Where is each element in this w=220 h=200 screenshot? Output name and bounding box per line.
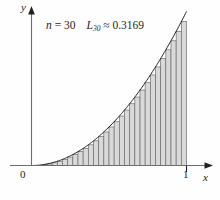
- riemann-bar: [156, 67, 161, 166]
- riemann-bar: [125, 110, 130, 165]
- riemann-bar: [181, 22, 186, 166]
- riemann-bar: [78, 152, 83, 166]
- riemann-bar: [140, 90, 145, 165]
- riemann-bar: [109, 127, 114, 166]
- riemann-bar: [161, 59, 166, 166]
- riemann-bar: [171, 41, 176, 166]
- riemann-bar: [176, 31, 181, 165]
- riemann-bar: [130, 104, 135, 166]
- riemann-bar: [63, 159, 68, 165]
- approx-sign: ≈: [100, 19, 112, 31]
- riemann-bar: [83, 148, 88, 165]
- riemann-bar: [145, 83, 150, 166]
- x-axis-arrow-icon: [205, 162, 214, 169]
- riemann-bar: [166, 50, 171, 166]
- riemann-bar: [68, 157, 73, 165]
- riemann-bar: [104, 132, 109, 166]
- riemann-bar: [119, 116, 124, 165]
- L-value: 0.3169: [112, 19, 144, 31]
- riemann-sum-annotation: n = 30L30 ≈ 0.3169: [46, 19, 144, 33]
- x-tick-label-1: 1: [183, 168, 189, 180]
- n-value: 30: [64, 19, 76, 31]
- riemann-bars-group: [42, 22, 187, 166]
- riemann-bar: [114, 122, 119, 166]
- riemann-bar: [57, 161, 62, 165]
- origin-tick-label: 0: [20, 168, 26, 180]
- left-riemann-sum-figure: y x 0 1 n = 30L30 ≈ 0.3169: [0, 0, 220, 200]
- riemann-bar: [88, 145, 93, 166]
- riemann-bar: [94, 141, 99, 166]
- y-axis-label: y: [21, 1, 26, 13]
- riemann-bar: [73, 155, 78, 166]
- riemann-bar: [135, 97, 140, 165]
- x-axis-label: x: [203, 171, 208, 183]
- riemann-bar: [99, 137, 104, 166]
- y-axis-arrow-icon: [28, 6, 35, 15]
- riemann-bar: [150, 75, 155, 166]
- n-equals: =: [52, 19, 64, 31]
